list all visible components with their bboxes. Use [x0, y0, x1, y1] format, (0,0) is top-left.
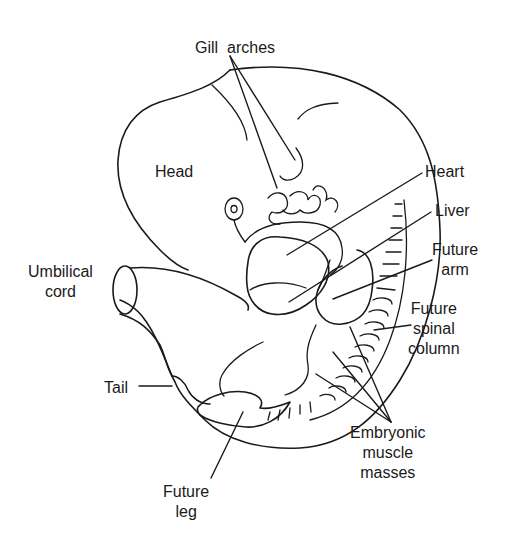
muscle-leader-1: [350, 327, 391, 422]
future-arm-leader: [333, 260, 432, 299]
upper-crease: [298, 103, 338, 119]
leg-bud-outline: [197, 392, 290, 428]
label-liver: Liver: [435, 201, 470, 221]
abdomen-crease-1: [220, 342, 263, 396]
label-head: Head: [155, 162, 193, 182]
liver-crease: [250, 283, 306, 290]
umbilical-cord-lower: [120, 314, 172, 376]
label-embryonic-muscle-masses: Embryonic muscle masses: [350, 423, 426, 483]
tail-outline: [172, 376, 210, 404]
gill-arch-1: [268, 193, 288, 224]
heart-leader: [287, 173, 422, 255]
gill-arch-3: [313, 186, 338, 212]
label-gill-arches: Gill arches: [195, 38, 275, 58]
ear-stalk: [234, 220, 245, 242]
future-spinal-column-leader: [374, 325, 411, 330]
label-umbilical-cord: Umbilical cord: [28, 262, 93, 302]
label-future-arm: Future arm: [432, 240, 478, 280]
umbilical-cord-tube: [130, 267, 248, 310]
label-future-leg: Future leg: [163, 482, 209, 522]
ear-vesicle-inner: [231, 206, 237, 213]
label-future-spinal-column: Future spinal column: [408, 299, 460, 359]
head-crease: [212, 85, 247, 140]
somites: [268, 204, 402, 420]
label-tail: Tail: [104, 378, 128, 398]
ear-vesicle: [225, 198, 243, 220]
label-heart: Heart: [425, 162, 464, 182]
abdomen-crease-2: [285, 325, 316, 395]
gill-arches-leader-2: [230, 56, 295, 160]
umbilical-cord-end: [113, 266, 137, 314]
gill-arches-leader-1: [230, 56, 277, 188]
gill-arch-2: [283, 192, 320, 214]
muscle-leader-3: [316, 374, 391, 422]
